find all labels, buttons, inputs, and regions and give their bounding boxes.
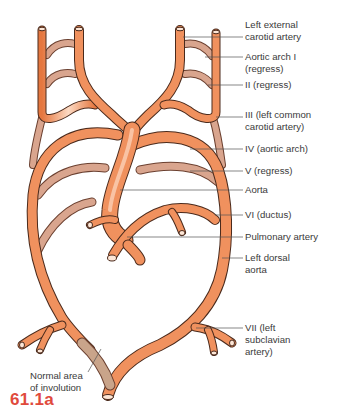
label-arch-V: V (regress): [245, 165, 292, 177]
label-left-external-carotid: Left external carotid artery: [245, 19, 301, 43]
label-arch-IV: IV (aortic arch): [245, 143, 308, 155]
label-arch-VI-ductus: VI (ductus): [245, 209, 291, 221]
label-aortic-arch-I: Aortic arch I (regress): [245, 51, 296, 75]
arch-VI-right-regressed: [38, 202, 92, 250]
label-arch-VII-subclavian: VII (left subclavian artery): [245, 322, 290, 358]
label-pulmonary-artery: Pulmonary artery: [245, 231, 318, 243]
label-left-dorsal-aorta: Left dorsal aorta: [245, 252, 290, 276]
label-arch-III: III (left common carotid artery): [245, 109, 311, 133]
main-vessels: [22, 30, 232, 395]
figure-number: 61.1a: [10, 390, 54, 410]
label-arch-II: II (regress): [245, 79, 291, 91]
label-aorta: Aorta: [245, 184, 268, 196]
